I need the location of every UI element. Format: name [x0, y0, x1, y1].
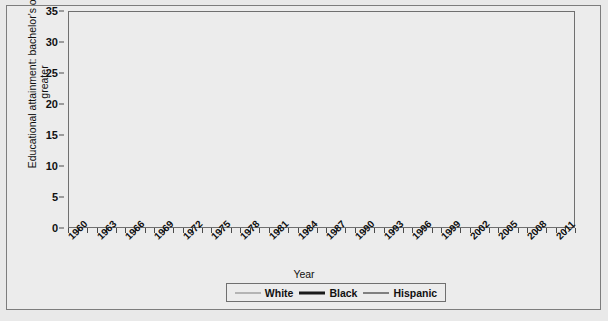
x-tick-mark — [518, 228, 519, 233]
legend-label-black: Black — [329, 287, 357, 299]
legend-item-white: White — [235, 287, 294, 299]
y-tick-label: 20 — [46, 98, 58, 110]
chart-legend: WhiteBlackHispanic — [226, 283, 446, 302]
x-tick-mark — [575, 228, 576, 233]
y-tick-mark — [59, 228, 64, 229]
x-tick-mark — [116, 228, 117, 233]
x-tick-mark — [259, 228, 260, 233]
y-tick-mark — [59, 11, 64, 12]
x-axis-title: Year — [0, 268, 608, 280]
x-tick-mark — [231, 228, 232, 233]
y-tick-label: 0 — [52, 222, 58, 234]
x-tick-mark — [432, 228, 433, 233]
y-tick-label: 10 — [46, 160, 58, 172]
legend-swatch-white — [235, 289, 261, 297]
legend-item-black: Black — [299, 287, 357, 299]
plot-wrapper — [68, 11, 575, 228]
x-tick-mark — [374, 228, 375, 233]
y-tick-mark — [59, 104, 64, 105]
y-tick-mark — [59, 166, 64, 167]
plot-area — [68, 11, 575, 228]
x-tick-mark — [145, 228, 146, 233]
y-axis-tick-labels: 05101520253035 — [40, 11, 64, 228]
x-tick-mark — [87, 228, 88, 233]
legend-label-hispanic: Hispanic — [393, 287, 437, 299]
y-tick-mark — [59, 197, 64, 198]
x-tick-mark — [202, 228, 203, 233]
y-tick-label: 15 — [46, 129, 58, 141]
y-tick-mark — [59, 135, 64, 136]
legend-label-white: White — [265, 287, 294, 299]
x-tick-mark — [403, 228, 404, 233]
y-tick-label: 30 — [46, 36, 58, 48]
x-tick-mark — [317, 228, 318, 233]
x-tick-mark — [288, 228, 289, 233]
x-tick-mark — [345, 228, 346, 233]
y-tick-label: 5 — [52, 191, 58, 203]
chart-figure: Educational attainment: bachelor's or gr… — [0, 0, 608, 321]
x-tick-mark — [546, 228, 547, 233]
x-axis-tick-labels: 1960196319661969197219751978198119841987… — [68, 234, 575, 270]
legend-item-hispanic: Hispanic — [363, 287, 437, 299]
x-tick-mark — [173, 228, 174, 233]
y-tick-label: 35 — [46, 5, 58, 17]
y-tick-label: 25 — [46, 67, 58, 79]
y-tick-mark — [59, 73, 64, 74]
x-tick-mark — [489, 228, 490, 233]
legend-swatch-hispanic — [363, 289, 389, 297]
x-tick-mark — [460, 228, 461, 233]
y-tick-mark — [59, 42, 64, 43]
legend-swatch-black — [299, 289, 325, 297]
